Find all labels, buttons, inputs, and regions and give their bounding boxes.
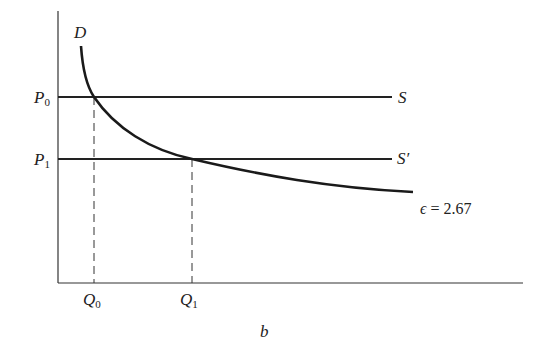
panel-label: b (260, 323, 269, 340)
diagram-canvas (0, 0, 543, 346)
supply-s-prime-label: S′ (397, 150, 409, 167)
demand-curve (81, 46, 413, 192)
quantity-q1-label: Q1 (180, 291, 198, 310)
elasticity-annotation: ϵ = 2.67 (420, 201, 471, 217)
price-p1-label: P1 (34, 151, 50, 170)
demand-label: D (74, 24, 86, 41)
supply-s-label: S (398, 89, 407, 106)
price-p0-label: P0 (34, 89, 50, 108)
quantity-q0-label: Q0 (83, 291, 101, 310)
